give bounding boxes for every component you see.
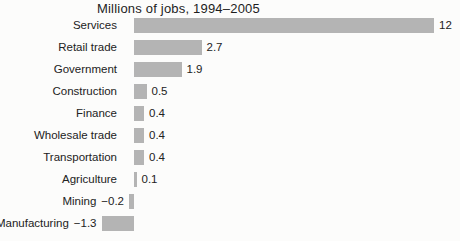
bar [134, 62, 182, 77]
category-label: Mining [62, 190, 96, 212]
value-label: 12 [439, 14, 452, 36]
row-left-zone: Construction [0, 80, 134, 102]
bar-row: Wholesale trade0.4 [0, 124, 460, 146]
category-label: Wholesale trade [34, 124, 117, 146]
row-right-zone: 12 [134, 14, 452, 36]
value-label: 2.7 [207, 36, 223, 58]
value-label: 0.4 [149, 102, 165, 124]
bar-row: Mining−0.2 [0, 190, 460, 212]
bar-row: Manufacturing−1.3 [0, 212, 460, 234]
row-left-zone: Transportation [0, 146, 134, 168]
value-label: −0.2 [101, 190, 124, 212]
bar [134, 150, 144, 165]
row-left-zone: Agriculture [0, 168, 134, 190]
row-left-zone: Finance [0, 102, 134, 124]
bar-row: Finance0.4 [0, 102, 460, 124]
row-right-zone: 0.4 [134, 102, 165, 124]
category-label: Retail trade [58, 36, 117, 58]
bar [134, 40, 202, 55]
row-right-zone: 1.9 [134, 58, 203, 80]
row-left-zone: Retail trade [0, 36, 134, 58]
category-label: Agriculture [62, 168, 117, 190]
category-label: Construction [52, 80, 117, 102]
bar-row: Transportation0.4 [0, 146, 460, 168]
bar [134, 18, 434, 33]
value-label: 0.4 [149, 146, 165, 168]
bar-row: Construction0.5 [0, 80, 460, 102]
row-left-zone: Mining−0.2 [0, 190, 134, 212]
row-left-zone: Services [0, 14, 134, 36]
row-right-zone: 0.4 [134, 146, 165, 168]
row-right-zone: 0.1 [134, 168, 158, 190]
value-label: 0.4 [149, 124, 165, 146]
category-label: Services [73, 14, 117, 36]
category-label: Manufacturing [0, 212, 69, 234]
value-label: 0.5 [152, 80, 168, 102]
bar-row: Agriculture0.1 [0, 168, 460, 190]
bar [134, 128, 144, 143]
row-left-zone: Wholesale trade [0, 124, 134, 146]
category-label: Finance [76, 102, 117, 124]
value-label: 0.1 [142, 168, 158, 190]
row-left-zone: Manufacturing−1.3 [0, 212, 134, 234]
bar-row: Retail trade2.7 [0, 36, 460, 58]
bar [102, 216, 135, 231]
bar [134, 106, 144, 121]
category-label: Government [54, 58, 117, 80]
category-label: Transportation [43, 146, 117, 168]
bar-row: Services12 [0, 14, 460, 36]
bar-chart: Millions of jobs, 1994–2005 Services12Re… [0, 0, 460, 241]
value-label: −1.3 [74, 212, 97, 234]
row-right-zone: 0.5 [134, 80, 168, 102]
bar [134, 84, 147, 99]
bar-row: Government1.9 [0, 58, 460, 80]
value-label: 1.9 [187, 58, 203, 80]
row-right-zone: 0.4 [134, 124, 165, 146]
bar [134, 172, 137, 187]
row-right-zone: 2.7 [134, 36, 223, 58]
bar-rows: Services12Retail trade2.7Government1.9Co… [0, 14, 460, 234]
row-left-zone: Government [0, 58, 134, 80]
bar [129, 194, 134, 209]
